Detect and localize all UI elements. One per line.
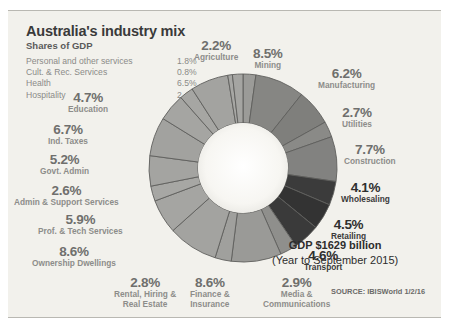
donut-slice [285, 175, 337, 205]
legend-value: 0.8% [177, 67, 211, 78]
legend-label: Hospitality [26, 90, 66, 101]
source-credit: SOURCE: IBISWorld 1/2/16 [331, 287, 425, 296]
callout-rental-hiring-real-estate: 2.8% Rental, Hiring &Real Estate [114, 276, 176, 309]
callout-ownership-dwellings: 8.6% Ownership Dwellings [32, 245, 116, 269]
donut-hole [198, 123, 288, 213]
legend-item: Cult. & Rec. Services 0.8% [26, 67, 211, 78]
legend-label: Cult. & Rec. Services [26, 67, 107, 78]
callout-admin-support-services: 2.6% Admin & Support Services [14, 184, 119, 208]
callout-agriculture: 2.2% Agriculture [194, 39, 238, 63]
legend-item: Hospitality 2.4% [26, 90, 211, 101]
page-title: Australia's industry mix [26, 23, 185, 39]
gdp-total: GDP $1629 billion (Year to September 201… [272, 239, 398, 267]
donut-slice [271, 94, 325, 146]
legend-item: Personal and other services 1.8% [26, 56, 211, 67]
donut-slice [215, 211, 237, 261]
callout-education: 4.7% Education [68, 91, 108, 115]
donut-slice [282, 122, 331, 153]
donut-slice [151, 177, 201, 201]
callout-finance-insurance: 8.6% Finance &Insurance [190, 276, 230, 309]
donut-slice [155, 184, 209, 231]
callout-ind-taxes: 6.7% Ind. Taxes [48, 123, 88, 147]
callout-construction: 7.7% Construction [344, 143, 396, 167]
callout-prof-tech-services: 5.9% Prof. & Tech Services [38, 213, 123, 237]
chart-panel: Australia's industry mix Shares of GDP P… [8, 10, 441, 318]
donut-slice [286, 137, 337, 182]
callout-wholesaling: 4.1% Wholesaling [341, 181, 390, 205]
chart-subtitle: Shares of GDP [26, 40, 93, 51]
callout-utilities: 2.7% Utilities [342, 106, 372, 130]
callout-media-communications: 2.9% Media &Communications [263, 276, 330, 309]
callout-retailing: 4.5% Retailing [331, 218, 366, 242]
donut-slice [249, 75, 301, 133]
donut-slices [149, 74, 337, 262]
legend-label: Health [26, 78, 51, 89]
donut-slice [149, 156, 199, 187]
legend-list: Personal and other services 1.8% Cult. &… [26, 56, 211, 101]
donut-slice [232, 74, 243, 123]
legend-item: Health 6.5% [26, 78, 211, 89]
donut-slice [228, 75, 238, 124]
donut-slice [243, 74, 256, 123]
donut-slice [150, 119, 205, 162]
callout-manufacturing: 6.2% Manufacturing [318, 67, 375, 91]
legend-value: 2.4% [177, 90, 211, 101]
callout-mining: 8.5% Mining [253, 47, 283, 71]
callout-govt-admin: 5.2% Govt. Admin [40, 153, 89, 177]
legend-label: Personal and other services [26, 56, 133, 67]
donut-slice [278, 186, 330, 228]
donut-slice [163, 97, 213, 144]
legend-value: 6.5% [177, 78, 211, 89]
donut-slice [173, 198, 230, 258]
